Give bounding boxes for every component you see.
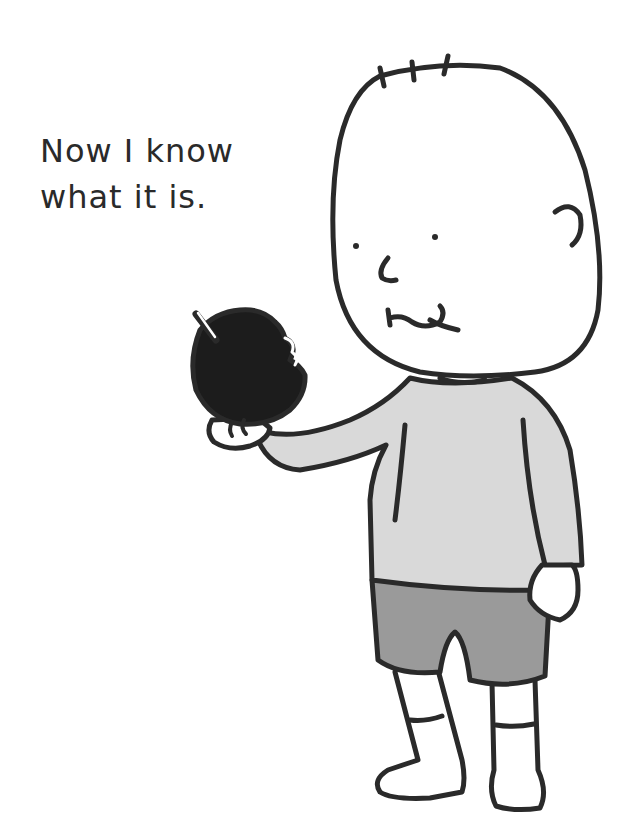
right-eye (432, 234, 438, 240)
legs (377, 670, 543, 810)
right-hand (530, 565, 578, 620)
shorts (372, 580, 550, 684)
left-eye (353, 243, 359, 249)
child-illustration (0, 0, 642, 832)
apple-icon (193, 310, 305, 424)
shirt (258, 378, 582, 590)
head (333, 65, 600, 376)
